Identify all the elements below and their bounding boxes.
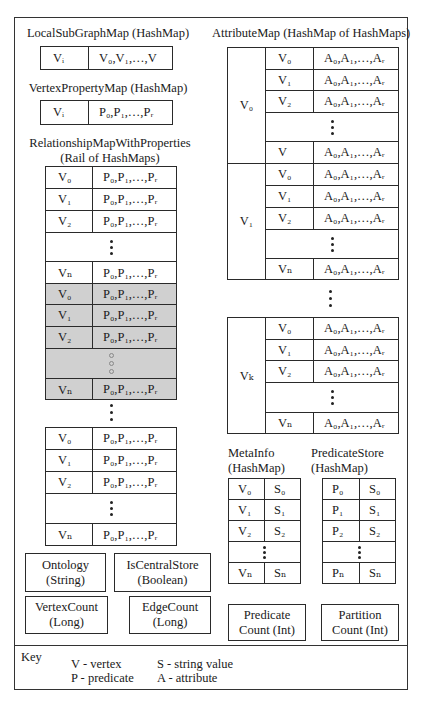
vertex-count-box: VertexCount (Long) (25, 596, 108, 634)
ellipsis-row (266, 383, 398, 413)
key-cell: V₀ (46, 284, 93, 304)
value-cell: A₀,A₁,…,Aᵣ (314, 91, 398, 112)
table-row: V₁ A₀,A₁,…,Aᵣ (266, 340, 398, 361)
relationship-map-title: RelationshipMapWithProperties (20, 136, 200, 151)
key-entry-predicate: P - predicate (71, 671, 134, 685)
key-cell: V₁ (266, 340, 314, 360)
table-row: V₀ A₀,A₁,…,Aᵣ (266, 164, 398, 186)
key-cell: V₁ (229, 500, 265, 520)
predicate-count-type: Count (Int) (239, 623, 295, 638)
key-cell: V₁ (46, 450, 93, 471)
vertical-ellipsis-icon (266, 230, 398, 258)
table-row: P₀ S₀ (323, 479, 395, 500)
value-cell: S₁ (360, 500, 395, 520)
meta-info-title: MetaInfo (228, 446, 275, 461)
relationship-block-1: V₀ P₀,P₁,…,Pᵣ V₁ P₀,P₁,…,Pᵣ V₂ P₀,P₁,…,P… (45, 166, 177, 284)
value-cell: P₀,P₁,…,Pᵣ (93, 524, 176, 546)
inner-map: V₀ A₀,A₁,…,Aᵣ V₁ A₀,A₁,…,Aᵣ V₂ A₀,A₁,…,A… (266, 318, 398, 433)
key-cell: P₁ (323, 500, 360, 520)
table-row: Vₙ A₀,A₁,…,Aᵣ (266, 413, 398, 433)
table-row: P₂ S₂ (323, 521, 395, 542)
table-row: V₁ A₀,A₁,…,Aᵣ (266, 70, 398, 91)
key-cell: V₁ (46, 189, 93, 210)
table-row: Vₙ P₀,P₁,…,Pᵣ (46, 524, 176, 546)
table-row: V₂ A₀,A₁,…,Aᵣ (266, 208, 398, 230)
table-row: P₁ S₁ (323, 500, 395, 521)
key-cell: P₂ (323, 521, 360, 541)
value-cell: P₀,P₁,…,Pᵣ (93, 450, 176, 471)
outer-key-cell: V₁ (228, 164, 266, 279)
value-cell: P₀,P₁,…,Pᵣ (93, 262, 176, 284)
key-cell: V₁ (266, 70, 314, 90)
attribute-block-k: Vₖ V₀ A₀,A₁,…,Aᵣ V₁ A₀,A₁,…,Aᵣ V₂ A₀,A₁,… (227, 317, 399, 434)
vertex-count-label: VertexCount (35, 600, 98, 615)
outer-key-cell: Vₖ (228, 318, 266, 433)
table-row: V₂ P₀,P₁,…,Pᵣ (46, 472, 176, 494)
value-cell: A₀,A₁,…,Aᵣ (314, 70, 398, 90)
key-cell: Vₙ (266, 259, 314, 279)
table-row: V₁ P₀,P₁,…,Pᵣ (46, 189, 176, 211)
key-cell: Vₙ (229, 563, 265, 583)
vertical-ellipsis-icon (46, 349, 176, 378)
edge-count-type: (Long) (153, 615, 188, 630)
table-row: V₂ A₀,A₁,…,Aᵣ (266, 361, 398, 383)
value-cell: A₀,A₁,…,Aᵣ (314, 208, 398, 229)
meta-info-subtitle: (HashMap) (228, 461, 285, 476)
table-row: Vᵢ V₀,V₁,…,V (41, 47, 172, 69)
attribute-map-title: AttributeMap (HashMap of HashMaps) (212, 26, 407, 41)
ellipsis-row (229, 542, 300, 563)
edge-count-box: EdgeCount (Long) (129, 596, 211, 634)
table-row: V₀ P₀,P₁,…,Pᵣ (46, 167, 176, 189)
value-cell: P₀,P₁,…,Pᵣ (93, 211, 176, 232)
value-cell: S₂ (265, 521, 300, 541)
value-cell: A₀,A₁,…,Aᵣ (314, 142, 398, 163)
local-subgraph-map-table: Vᵢ V₀,V₁,…,V (40, 46, 173, 70)
value-cell: V₀,V₁,…,V (89, 47, 172, 69)
key-cell: V (266, 142, 314, 163)
value-cell: P₀,P₁,…,Pᵣ (93, 284, 176, 304)
table-row: V₀ P₀,P₁,…,Pᵣ (46, 428, 176, 450)
vertical-ellipsis-icon (107, 404, 115, 421)
edge-count-label: EdgeCount (142, 600, 198, 615)
table-row: V₁ S₁ (229, 500, 300, 521)
key-entry-attribute: A - attribute (157, 671, 217, 685)
predicate-store-subtitle: (HashMap) (311, 461, 368, 476)
vertex-property-map-title: VertexPropertyMap (HashMap) (18, 81, 198, 96)
value-cell: P₀,P₁,…,Pᵣ (93, 428, 176, 449)
attribute-block-2: V₁ V₀ A₀,A₁,…,Aᵣ V₁ A₀,A₁,…,Aᵣ V₂ A₀,A₁,… (227, 163, 399, 280)
table-row: V₁ P₀,P₁,…,Pᵣ (46, 450, 176, 472)
value-cell: A₀,A₁,…,Aᵣ (314, 361, 398, 382)
key-cell: V₂ (46, 472, 93, 493)
key-cell: V₂ (46, 327, 93, 348)
vertical-ellipsis-icon (266, 383, 398, 412)
vertical-ellipsis-icon (326, 290, 334, 307)
table-row: V A₀,A₁,…,Aᵣ (266, 142, 398, 163)
key-cell: V₀ (266, 164, 314, 185)
value-cell: A₀,A₁,…,Aᵣ (314, 259, 398, 279)
key-cell: V₀ (46, 167, 93, 188)
value-cell: S₂ (360, 521, 395, 541)
key-cell: Pₙ (323, 563, 360, 583)
key-cell: Vₙ (266, 413, 314, 433)
vertical-ellipsis-icon (46, 494, 176, 523)
key-cell: Vₙ (46, 524, 93, 546)
value-cell: A₀,A₁,…,Aᵣ (314, 164, 398, 185)
value-cell: S₀ (360, 479, 395, 499)
table-row: V₂ S₂ (229, 521, 300, 542)
table-row: V₂ A₀,A₁,…,Aᵣ (266, 91, 398, 113)
key-cell: V₁ (46, 305, 93, 326)
partition-count-box: Partition Count (Int) (321, 604, 399, 641)
key-divider (14, 645, 408, 646)
ontology-box: Ontology (String) (25, 553, 106, 592)
vertical-ellipsis-icon (323, 542, 395, 562)
key-cell: V₀ (229, 479, 265, 499)
value-cell: P₀,P₁,…,Pᵣ (89, 101, 172, 124)
vertical-ellipsis-icon (266, 113, 398, 141)
key-cell: V₂ (229, 521, 265, 541)
value-cell: A₀,A₁,…,Aᵣ (314, 186, 398, 207)
table-row: V₂ P₀,P₁,…,Pᵣ (46, 211, 176, 233)
table-row: Pₙ Sₙ (323, 563, 395, 583)
ellipsis-row (46, 349, 176, 379)
ellipsis-row (266, 113, 398, 142)
meta-info-table: V₀ S₀ V₁ S₁ V₂ S₂ Vₙ Sₙ (228, 478, 301, 584)
